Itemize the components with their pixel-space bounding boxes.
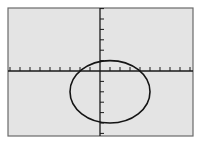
ellipse-graph	[0, 0, 200, 146]
